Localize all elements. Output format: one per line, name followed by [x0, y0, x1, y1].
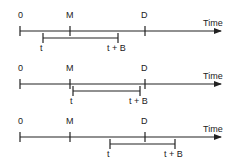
label-zero: 0 — [18, 10, 23, 20]
label-t: t — [107, 149, 110, 159]
label-t: t — [40, 43, 43, 53]
label-zero: 0 — [18, 63, 23, 73]
label-time: Time — [203, 18, 223, 28]
label-t: t — [70, 96, 73, 106]
timeline-diagram: 0 M D Time t t + B 0 M D Time t t + B 0 … — [0, 0, 243, 167]
label-time: Time — [203, 71, 223, 81]
label-t-plus-b: t + B — [107, 43, 126, 53]
label-t-plus-b: t + B — [164, 149, 183, 159]
label-m: M — [66, 116, 74, 126]
timeline-1: 0 M D Time t t + B — [18, 10, 223, 53]
label-d: D — [141, 10, 148, 20]
label-m: M — [66, 10, 74, 20]
label-zero: 0 — [18, 116, 23, 126]
label-d: D — [141, 116, 148, 126]
label-time: Time — [203, 124, 223, 134]
label-t-plus-b: t + B — [129, 96, 148, 106]
label-d: D — [141, 63, 148, 73]
timeline-3: 0 M D Time t t + B — [18, 116, 223, 159]
timeline-2: 0 M D Time t t + B — [18, 63, 223, 106]
label-m: M — [66, 63, 74, 73]
